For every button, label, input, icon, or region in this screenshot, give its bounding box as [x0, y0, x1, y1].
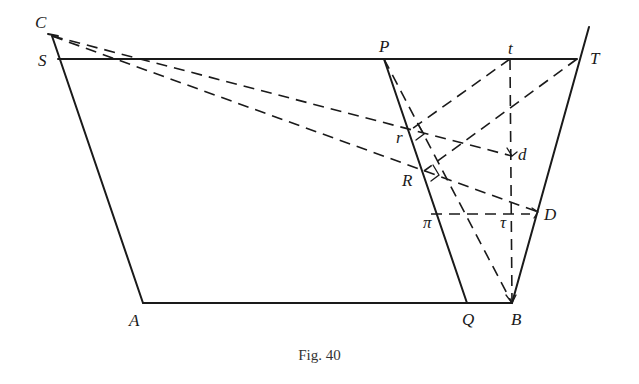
label-C: C	[35, 14, 46, 31]
geometry-diagram	[0, 0, 639, 384]
line-B-T	[512, 27, 589, 303]
dash-C-D	[52, 36, 538, 212]
label-r: r	[396, 129, 403, 146]
label-P: P	[379, 38, 389, 55]
line-S-A	[52, 36, 143, 303]
dash-C-d	[52, 36, 512, 156]
label-tau: τ	[500, 214, 506, 231]
label-B: B	[511, 311, 521, 328]
label-S: S	[38, 52, 47, 69]
label-t: t	[508, 40, 513, 57]
label-pi: π	[423, 214, 432, 231]
figure-caption: Fig. 40	[0, 347, 639, 364]
line-P-Q	[384, 59, 467, 303]
label-D: D	[544, 206, 556, 223]
dash-t-r	[409, 59, 510, 131]
label-R: R	[402, 172, 412, 189]
dash-t-B	[510, 59, 512, 303]
label-A: A	[129, 312, 139, 329]
label-d: d	[518, 146, 527, 163]
label-Q: Q	[462, 311, 474, 328]
label-T: T	[590, 50, 599, 67]
